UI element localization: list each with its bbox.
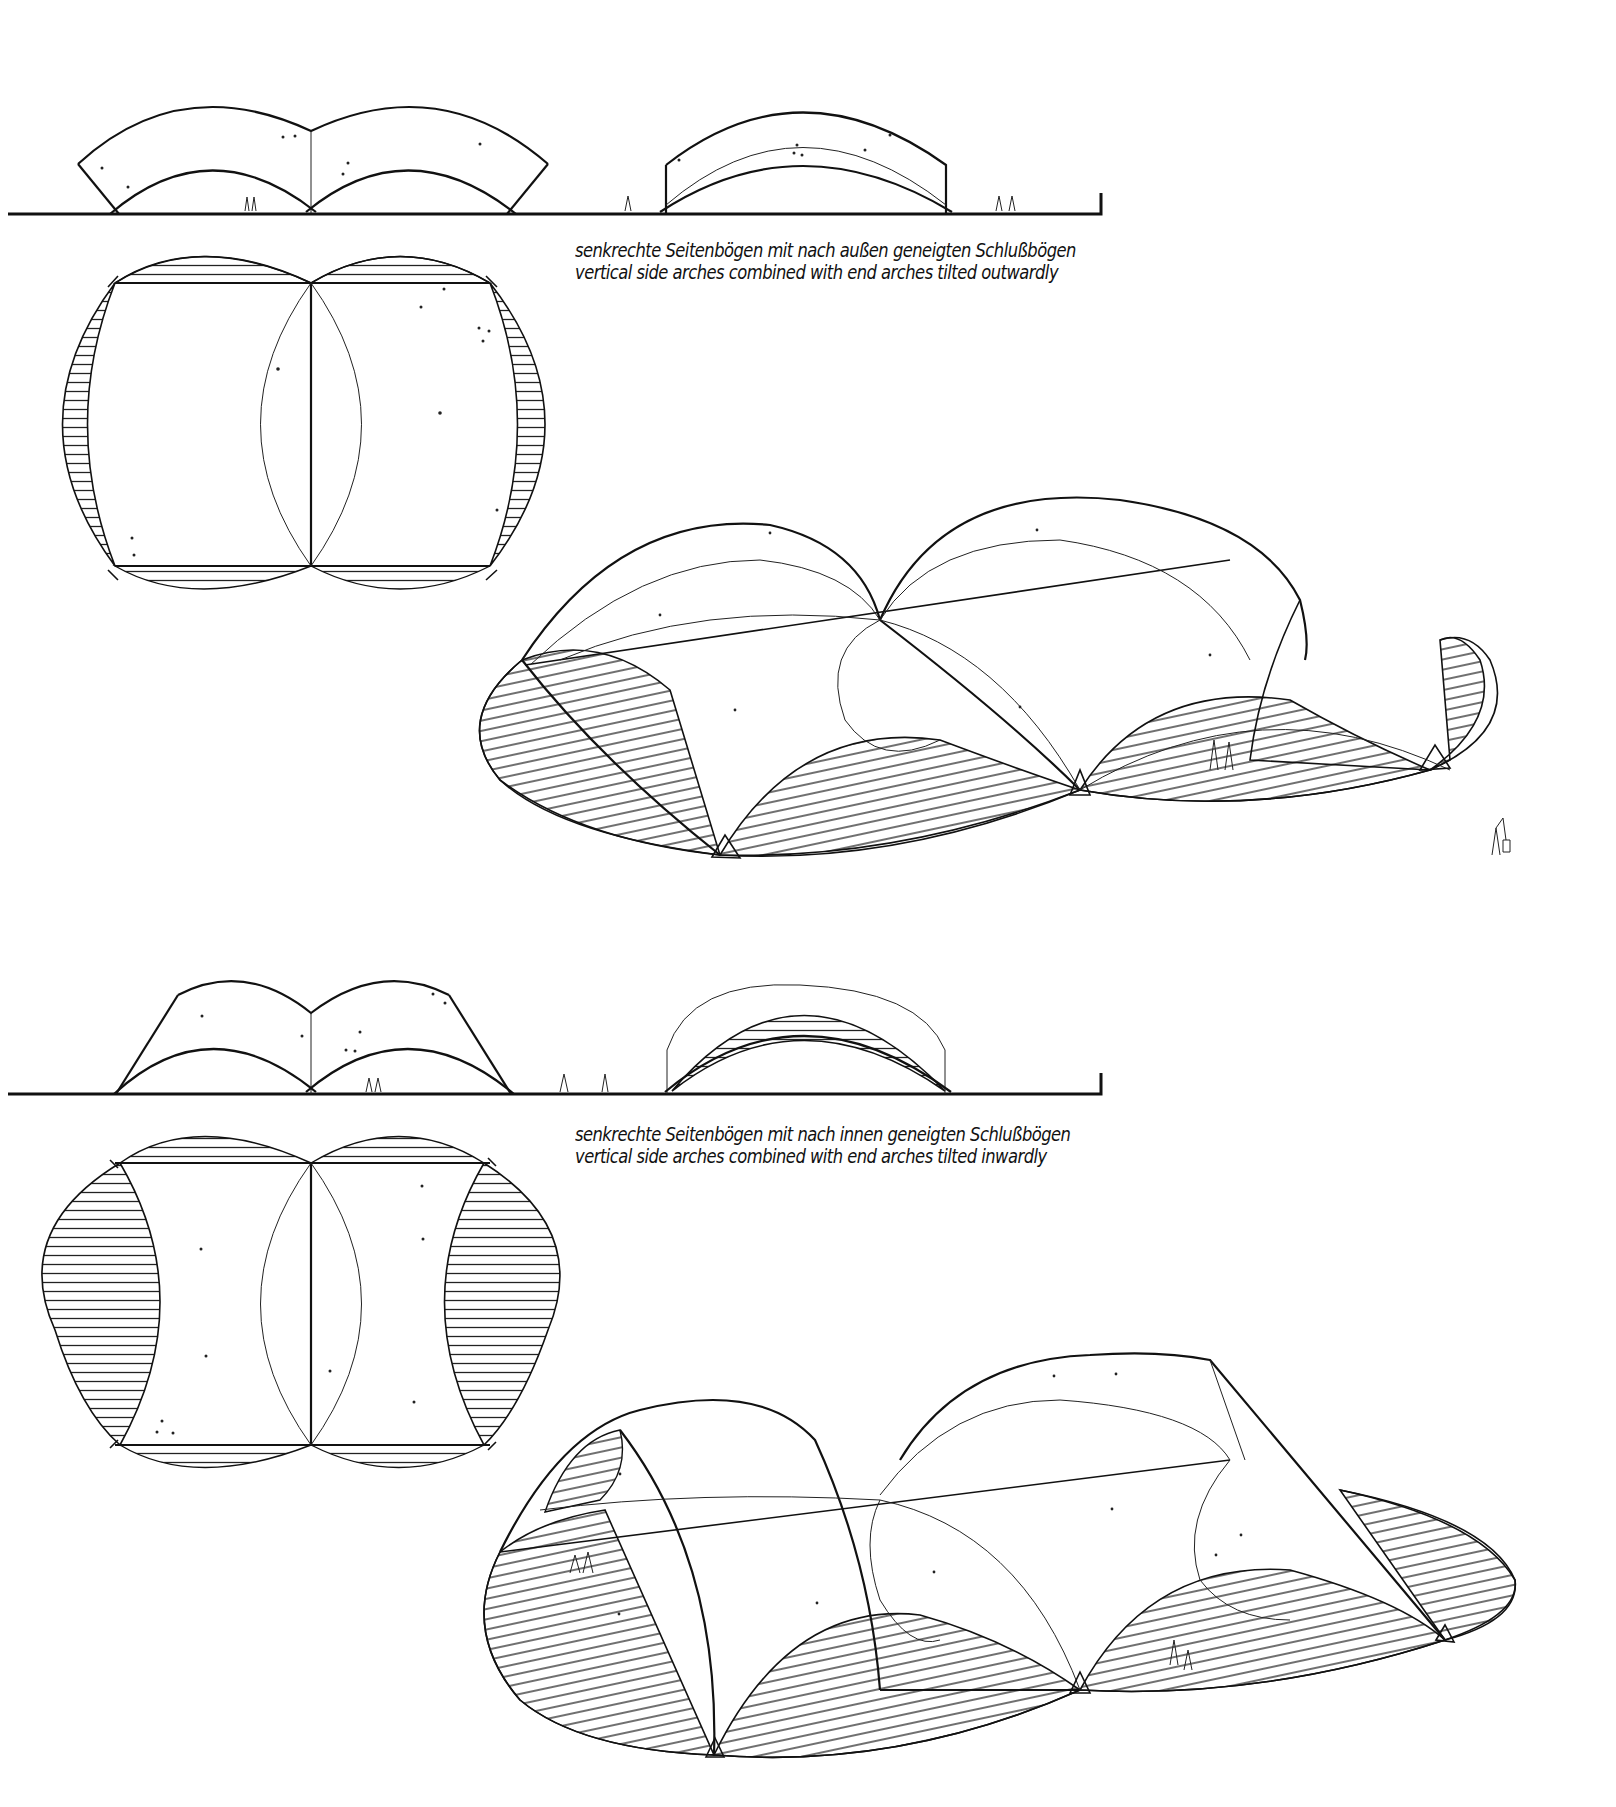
variant-inward [8,981,1515,1757]
perspective-inward [484,1353,1515,1757]
perspective-outward [480,498,1498,859]
caption-inward-german: senkrechte Seitenbögen mit nach innen ge… [575,1123,1070,1145]
elevation-row-outward [8,107,1101,214]
scale-figures [366,1074,608,1092]
end-elevation-outward [660,113,952,214]
end-elevation-inward [665,985,951,1094]
caption-outward: senkrechte Seitenbögen mit nach außen ge… [575,239,1076,283]
plan-outward [63,257,546,590]
variant-outward [8,107,1510,858]
side-elevation-inward [114,981,514,1094]
scale-figures [245,196,1015,211]
plan-inward [42,1137,560,1468]
side-elevation-outward [78,107,548,214]
elevation-row-inward [8,981,1101,1094]
scale-figure-lone [1492,818,1510,855]
caption-inward: senkrechte Seitenbögen mit nach innen ge… [575,1123,1070,1167]
caption-inward-english: vertical side arches combined with end a… [575,1145,1070,1167]
caption-outward-english: vertical side arches combined with end a… [575,261,1076,283]
caption-outward-german: senkrechte Seitenbögen mit nach außen ge… [575,239,1076,261]
